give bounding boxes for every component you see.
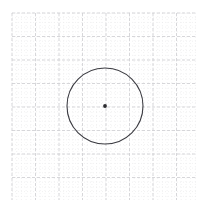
figure-canvas [0,0,209,215]
circle-diagram-svg [0,0,209,215]
circle-center-dot [103,104,107,108]
